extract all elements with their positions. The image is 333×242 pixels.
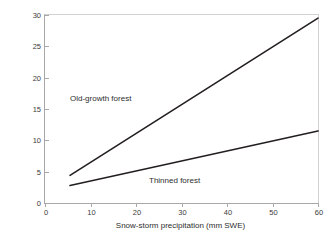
- x-tick-label-60: 60: [315, 209, 323, 217]
- x-tick-60: 60: [318, 203, 319, 207]
- x-tick-label-20: 20: [133, 209, 141, 217]
- y-tick-15: 15: [45, 109, 49, 110]
- y-tick-label-10: 10: [33, 138, 41, 146]
- y-tick-label-15: 15: [33, 106, 41, 114]
- x-tick-label-10: 10: [87, 209, 95, 217]
- x-tick-40: 40: [227, 203, 228, 207]
- x-tick-50: 50: [273, 203, 274, 207]
- y-tick-label-5: 5: [37, 169, 41, 177]
- series-annotation-thinned-forest: Thinned forest: [149, 177, 200, 185]
- plot-area: Old-growth forest Thinned forest 30 25 2…: [44, 14, 319, 204]
- y-tick-20: 20: [45, 78, 49, 79]
- x-tick-10: 10: [91, 203, 92, 207]
- series-layer: [45, 15, 318, 203]
- y-tick-5: 5: [45, 172, 49, 173]
- series-annotation-old-growth-forest: Old-growth forest: [70, 95, 131, 103]
- y-tick-30: 30: [45, 15, 49, 16]
- y-tick-label-30: 30: [33, 12, 41, 20]
- y-tick-label-20: 20: [33, 75, 41, 83]
- x-tick-label-30: 30: [178, 209, 186, 217]
- x-tick-0: 0: [45, 203, 46, 207]
- x-tick-label-50: 50: [269, 209, 277, 217]
- x-tick-label-40: 40: [224, 209, 232, 217]
- x-axis-title: Snow-storm precipitation (mm SWE): [44, 222, 317, 230]
- x-tick-20: 20: [136, 203, 137, 207]
- x-tick-label-0: 0: [44, 209, 48, 217]
- x-tick-30: 30: [182, 203, 183, 207]
- y-tick-label-25: 25: [33, 44, 41, 52]
- y-tick-10: 10: [45, 140, 49, 141]
- y-tick-25: 25: [45, 46, 49, 47]
- y-tick-label-0: 0: [37, 200, 41, 208]
- chart-figure: Old-growth forest Thinned forest 30 25 2…: [0, 0, 333, 242]
